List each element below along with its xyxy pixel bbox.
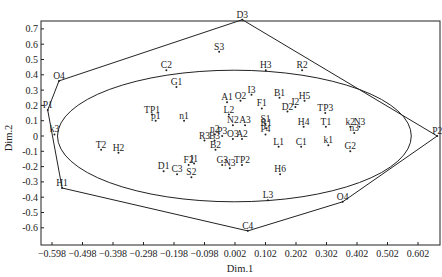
point-label: F1: [257, 98, 267, 108]
data-point: H2: [113, 143, 125, 154]
data-point: D3: [237, 10, 249, 21]
data-point: A3: [239, 115, 251, 126]
point-label: D1: [158, 161, 170, 171]
data-point: C3: [172, 164, 183, 175]
point-label: A1: [221, 92, 233, 102]
y-tick-label: -0.3: [22, 176, 38, 187]
data-point: O2: [235, 91, 247, 102]
y-tick-label: 0.3: [26, 85, 39, 96]
data-point: N2: [227, 115, 239, 126]
point-label: T2: [96, 140, 107, 150]
point-label: A2: [236, 129, 248, 139]
point-label: O4: [337, 192, 349, 202]
y-tick-label: 0.1: [26, 115, 39, 126]
point-label: H2: [113, 143, 125, 153]
data-point: B1: [274, 88, 285, 99]
x-tick-label: −0.398: [99, 248, 127, 259]
point-label: N2: [227, 115, 239, 125]
x-tick-label: −0.298: [129, 248, 157, 259]
point-label: C3: [172, 164, 183, 174]
point-label: B2: [210, 140, 221, 150]
point-label: P2: [432, 126, 442, 136]
data-point: D1: [158, 161, 170, 172]
hull-and-ellipse: [48, 20, 438, 231]
data-point: S2: [186, 167, 196, 178]
point-label: L1: [273, 137, 284, 147]
data-point: S3: [214, 42, 224, 53]
data-points: D3S3C2H3R2O4G1I3B1H5A1O2I2F1D2TP3P1TP1p1…: [43, 10, 442, 232]
point-label: k1: [324, 135, 334, 145]
data-point: P4: [260, 124, 270, 135]
y-tick-label: 0: [33, 131, 38, 142]
data-point: F2: [184, 155, 194, 166]
x-tick-label: 0.202: [285, 248, 308, 259]
data-point: O4: [53, 71, 65, 82]
data-point: T1: [321, 117, 332, 128]
x-tick-label: −0.098: [190, 248, 218, 259]
convex-hull: [48, 20, 438, 231]
x-tick-label: 0.102: [254, 248, 277, 259]
data-point: P2: [432, 126, 442, 137]
data-point: O4: [337, 192, 349, 203]
data-point: n1: [179, 111, 189, 122]
x-tick-label: −0.198: [160, 248, 188, 259]
x-tick-label: −0.498: [68, 248, 96, 259]
point-label: O4: [53, 71, 65, 81]
data-point: p1: [151, 111, 161, 122]
point-label: C2: [161, 60, 172, 70]
point-label: A3: [239, 115, 251, 125]
point-label: p1: [151, 111, 161, 121]
point-label: R2: [297, 60, 308, 70]
point-label: H1: [56, 178, 68, 188]
y-tick-label: -0.1: [22, 146, 38, 157]
data-point: I3: [248, 85, 256, 96]
y-axis-title: Dim.2: [3, 125, 14, 152]
x-tick-label: 0.002: [224, 248, 247, 259]
data-point: A2: [236, 129, 248, 140]
point-label: L3: [263, 190, 274, 200]
data-point: C2: [161, 60, 172, 71]
x-tick-label: 0.302: [315, 248, 338, 259]
point-label: I3: [248, 85, 256, 95]
point-label: C1: [296, 137, 307, 147]
data-point: B2: [210, 140, 221, 151]
data-point: G1: [171, 77, 183, 88]
point-label: O2: [235, 91, 247, 101]
data-point: k1: [324, 135, 334, 146]
point-label: P4: [260, 124, 270, 134]
data-point: F1: [257, 98, 267, 109]
data-point: G2: [344, 141, 356, 152]
y-tick-label: -0.2: [22, 161, 38, 172]
point-label: G1: [171, 77, 183, 87]
point-label: H3: [260, 60, 272, 70]
point-label: TP2: [234, 155, 250, 165]
y-tick-label: -0.6: [22, 222, 38, 233]
data-point: L3: [263, 190, 274, 201]
y-tick-label: 0.5: [26, 54, 39, 65]
point-label: n1: [179, 111, 189, 121]
data-point: H6: [274, 164, 286, 175]
point-label: B1: [274, 88, 285, 98]
data-point: H4: [298, 117, 310, 128]
data-point: A1: [221, 92, 233, 103]
point-label: H4: [298, 117, 310, 127]
point-label: F2: [184, 155, 194, 165]
data-point: n3: [350, 123, 360, 134]
point-label: H6: [274, 164, 286, 174]
data-point: C1: [296, 137, 307, 148]
data-point: H5: [299, 91, 311, 102]
point-label: D2: [282, 102, 294, 112]
data-point: H3: [260, 60, 272, 71]
point-label: S2: [186, 167, 196, 177]
point-label: S3: [214, 42, 224, 52]
y-tick-label: 0.2: [26, 100, 39, 111]
point-label: L2: [224, 105, 235, 115]
data-point: TP3: [317, 103, 333, 114]
y-tick-label: 0.6: [26, 39, 39, 50]
point-label: G2: [344, 141, 356, 151]
y-tick-label: 0.4: [26, 69, 39, 80]
data-point: k3: [50, 124, 60, 135]
point-label: TP3: [317, 103, 333, 113]
point-label: k3: [50, 124, 60, 134]
data-point: H1: [56, 178, 68, 189]
